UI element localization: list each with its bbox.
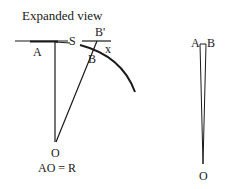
label-o-left: O [51, 146, 60, 160]
label-b-prime: B' [95, 25, 105, 39]
label-a-right: A [191, 36, 200, 50]
label-o-right: O [199, 169, 208, 183]
label-b-right: B [207, 36, 215, 50]
label-b-left: B [88, 52, 96, 66]
triangle-left-side [200, 44, 203, 164]
label-x: x [105, 42, 111, 56]
equation-ao-r: AO = R [38, 161, 76, 175]
diagram-canvas: Expanded view A S B' x B O AO = R A B O [0, 0, 236, 189]
arc-near-s [55, 42, 70, 43]
triangle-right-side [203, 44, 206, 164]
right-figure [200, 44, 206, 164]
label-a-left: A [33, 45, 42, 59]
label-s: S [69, 34, 76, 48]
diagram-title: Expanded view [22, 8, 103, 23]
